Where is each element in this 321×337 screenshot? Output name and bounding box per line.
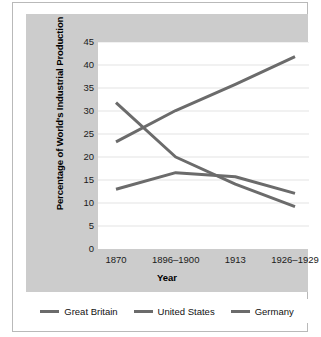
legend-item: Germany bbox=[231, 306, 294, 317]
chart-legend: Great BritainUnited StatesGermany bbox=[26, 299, 308, 323]
line-chart-svg bbox=[98, 42, 309, 249]
legend-line-icon bbox=[40, 310, 59, 313]
x-axis-title: Year bbox=[26, 272, 308, 283]
figure-frame: Percentage of World's Industrial Product… bbox=[12, 2, 308, 332]
series-lines bbox=[116, 57, 295, 207]
x-tick-label: 1913 bbox=[225, 254, 246, 265]
legend-line-icon bbox=[231, 310, 250, 313]
legend-item: United States bbox=[134, 306, 215, 317]
y-tick-label: 15 bbox=[62, 175, 94, 185]
plot-area bbox=[98, 42, 309, 249]
chart-panel: Percentage of World's Industrial Product… bbox=[26, 14, 308, 292]
y-tick-label: 35 bbox=[62, 83, 94, 93]
x-tick-label: 1926–1929 bbox=[271, 254, 319, 265]
y-tick-label: 45 bbox=[62, 37, 94, 47]
x-tick-label: 1896–1900 bbox=[152, 254, 200, 265]
y-tick-label: 20 bbox=[62, 152, 94, 162]
x-tick-label: 1870 bbox=[105, 254, 126, 265]
series-line-great-britain bbox=[116, 103, 295, 207]
y-tick-label: 25 bbox=[62, 129, 94, 139]
legend-line-icon bbox=[134, 310, 153, 313]
series-line-germany bbox=[116, 173, 295, 194]
y-axis-tick-labels: 051015202530354045 bbox=[56, 14, 94, 292]
legend-item: Great Britain bbox=[40, 306, 117, 317]
y-tick-label: 0 bbox=[62, 244, 94, 254]
series-line-united-states bbox=[116, 57, 295, 142]
legend-label: United States bbox=[158, 306, 215, 317]
y-tick-label: 5 bbox=[62, 221, 94, 231]
legend-label: Great Britain bbox=[64, 306, 117, 317]
y-tick-label: 40 bbox=[62, 60, 94, 70]
y-tick-label: 10 bbox=[62, 198, 94, 208]
y-tick-label: 30 bbox=[62, 106, 94, 116]
legend-label: Germany bbox=[255, 306, 294, 317]
